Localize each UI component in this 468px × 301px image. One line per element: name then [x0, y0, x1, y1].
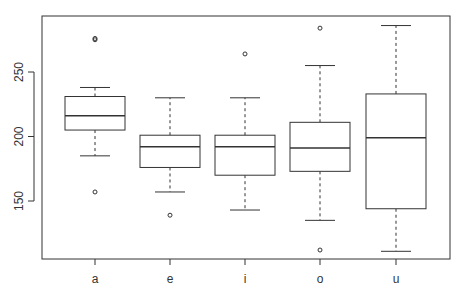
x-axis: aeiou	[92, 259, 400, 286]
box-o	[290, 26, 350, 252]
y-tick-label: 150	[12, 191, 26, 211]
outlier-point	[318, 26, 322, 30]
outlier-point	[168, 213, 172, 217]
box-series	[65, 26, 426, 252]
box-e	[140, 98, 200, 217]
x-tick-label: u	[393, 272, 400, 286]
iqr-box	[290, 122, 350, 171]
boxplot-chart: 150200250 aeiou	[0, 0, 468, 301]
x-tick-label: a	[92, 272, 99, 286]
iqr-box	[65, 97, 125, 131]
iqr-box	[140, 135, 200, 167]
box-u	[366, 26, 426, 252]
y-tick-label: 250	[12, 62, 26, 82]
y-axis: 150200250	[12, 62, 34, 211]
outlier-point	[318, 248, 322, 252]
y-tick-label: 200	[12, 126, 26, 146]
box-a	[65, 36, 125, 194]
x-tick-label: i	[244, 272, 247, 286]
outlier-point	[93, 190, 97, 194]
iqr-box	[215, 135, 275, 175]
iqr-box	[366, 94, 426, 209]
x-tick-label: e	[167, 272, 174, 286]
x-tick-label: o	[317, 272, 324, 286]
box-i	[215, 52, 275, 210]
outlier-point	[243, 52, 247, 56]
